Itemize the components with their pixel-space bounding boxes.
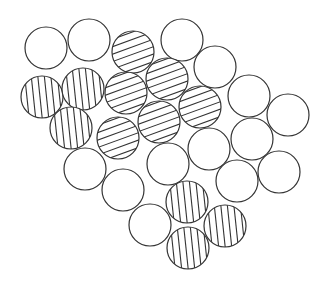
blank-circle xyxy=(64,148,106,190)
blank-circle xyxy=(194,46,236,88)
blank-circle xyxy=(68,19,110,61)
blank-circle xyxy=(102,169,144,211)
circle-packing-diagram xyxy=(0,0,324,285)
blank-circle xyxy=(231,118,273,160)
blank-circle xyxy=(161,19,203,61)
circle-group xyxy=(5,19,309,278)
blank-circle xyxy=(147,143,189,185)
blank-circle xyxy=(228,75,270,117)
blank-circle xyxy=(188,128,230,170)
blank-circle xyxy=(25,27,67,69)
blank-circle xyxy=(129,204,171,246)
blank-circle xyxy=(267,94,309,136)
blank-circle xyxy=(258,151,300,193)
blank-circle xyxy=(216,160,258,202)
